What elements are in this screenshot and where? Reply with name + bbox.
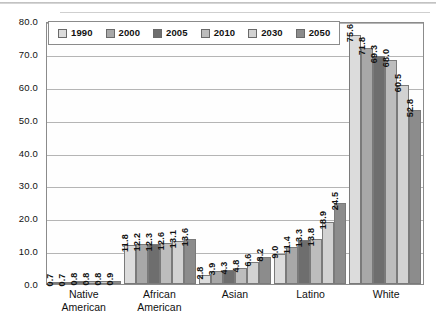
scan-artifact-line bbox=[0, 2, 436, 4]
bar-slot: 0.7 bbox=[49, 23, 61, 284]
bar-value-label: 52.8 bbox=[406, 99, 415, 117]
x-axis-category-label-line: Latino bbox=[273, 288, 349, 301]
bar-value-label: 0.8 bbox=[70, 273, 79, 286]
y-tick-label: 20.0 bbox=[19, 214, 38, 224]
bar-slot: 0.8 bbox=[97, 23, 109, 284]
x-axis-category-label: White bbox=[348, 288, 424, 314]
x-axis-category-label-line: Native bbox=[46, 288, 122, 301]
bar-group: 9.011.413.313.818.924.5 bbox=[273, 23, 348, 284]
bar-value-label: 12.2 bbox=[133, 233, 142, 251]
bar-value-label: 2.8 bbox=[196, 266, 205, 279]
bar-value-label: 6.6 bbox=[244, 254, 253, 267]
bar-slot: 13.8 bbox=[310, 23, 322, 284]
bar-slot: 3.9 bbox=[211, 23, 223, 284]
bar-slot: 6.6 bbox=[247, 23, 259, 284]
legend-label: 2005 bbox=[166, 28, 188, 38]
y-tick-label: 70.0 bbox=[19, 50, 38, 60]
bar-value-label: 69.3 bbox=[370, 45, 379, 63]
bar-slot: 60.5 bbox=[397, 23, 409, 284]
legend-item: 2000 bbox=[106, 28, 141, 38]
y-tick-label: 80.0 bbox=[19, 17, 38, 27]
bar[interactable] bbox=[334, 203, 346, 284]
bar-group: 0.70.70.80.80.80.9 bbox=[47, 23, 122, 284]
x-axis-category-label-line: American bbox=[122, 301, 198, 314]
bar-value-label: 9.0 bbox=[271, 246, 280, 259]
legend-swatch-icon bbox=[248, 29, 257, 38]
bar-value-label: 0.7 bbox=[46, 273, 55, 286]
x-axis-category-label-line: American bbox=[46, 301, 122, 314]
x-axis-category-labels: NativeAmericanAfricanAmericanAsianLatino… bbox=[46, 288, 424, 314]
bar-value-label: 11.8 bbox=[121, 234, 130, 252]
legend: 199020002005201020302050 bbox=[48, 21, 340, 45]
bar[interactable] bbox=[349, 35, 361, 284]
x-axis-category-label: Asian bbox=[197, 288, 273, 314]
chart-figure: 0.010.020.030.040.050.060.070.080.0 0.70… bbox=[0, 0, 436, 330]
bar-group: 11.812.212.312.613.113.6 bbox=[122, 23, 197, 284]
y-tick-label: 50.0 bbox=[19, 116, 38, 126]
x-axis-category-label-line: African bbox=[122, 288, 198, 301]
bar-value-label: 3.9 bbox=[208, 263, 217, 276]
bar-value-label: 68.0 bbox=[382, 49, 391, 67]
y-axis: 0.010.020.030.040.050.060.070.080.0 bbox=[0, 22, 44, 285]
bar-value-label: 0.8 bbox=[82, 273, 91, 286]
bar-value-label: 18.9 bbox=[319, 211, 328, 229]
x-axis-category-label: NativeAmerican bbox=[46, 288, 122, 314]
bar-value-label: 13.3 bbox=[295, 229, 304, 247]
y-tick-label: 10.0 bbox=[19, 247, 38, 257]
bar-slot: 52.8 bbox=[409, 23, 421, 284]
bar-slot: 75.6 bbox=[349, 23, 361, 284]
legend-item: 2030 bbox=[248, 28, 283, 38]
bar-slot: 0.8 bbox=[85, 23, 97, 284]
bar[interactable] bbox=[322, 222, 334, 284]
bar[interactable] bbox=[361, 48, 373, 284]
bar-value-label: 13.6 bbox=[181, 228, 190, 246]
bar[interactable] bbox=[385, 60, 397, 284]
bar-value-label: 4.3 bbox=[220, 261, 229, 274]
bar-slot: 2.8 bbox=[199, 23, 211, 284]
bar-value-label: 12.3 bbox=[145, 232, 154, 250]
bar-value-label: 0.7 bbox=[58, 273, 67, 286]
legend-label: 2010 bbox=[214, 28, 236, 38]
x-axis-category-label-line: Asian bbox=[197, 288, 273, 301]
legend-item: 1990 bbox=[58, 28, 93, 38]
bar-slot: 0.7 bbox=[61, 23, 73, 284]
legend-swatch-icon bbox=[106, 29, 115, 38]
bar[interactable] bbox=[274, 254, 286, 284]
legend-label: 2050 bbox=[309, 28, 331, 38]
bar-slot: 24.5 bbox=[334, 23, 346, 284]
bar-value-label: 13.1 bbox=[169, 230, 178, 248]
bar-value-label: 75.6 bbox=[346, 24, 355, 42]
bar-value-label: 24.5 bbox=[331, 192, 340, 210]
legend-item: 2010 bbox=[201, 28, 236, 38]
bar[interactable] bbox=[373, 56, 385, 284]
bar-value-label: 0.9 bbox=[106, 272, 115, 285]
bar-value-label: 11.4 bbox=[283, 236, 292, 254]
bar-groups: 0.70.70.80.80.80.911.812.212.312.613.113… bbox=[47, 23, 423, 284]
bar-value-label: 12.6 bbox=[157, 231, 166, 249]
bar-slot: 4.3 bbox=[223, 23, 235, 284]
bar[interactable] bbox=[409, 110, 421, 284]
legend-swatch-icon bbox=[153, 29, 162, 38]
legend-item: 2005 bbox=[153, 28, 188, 38]
bar-slot: 0.9 bbox=[109, 23, 121, 284]
bar-slot: 13.6 bbox=[184, 23, 196, 284]
y-tick-label: 60.0 bbox=[19, 83, 38, 93]
y-tick-label: 40.0 bbox=[19, 149, 38, 159]
bar-slot: 68.0 bbox=[385, 23, 397, 284]
bar-value-label: 4.8 bbox=[232, 260, 241, 273]
y-tick-label: 0.0 bbox=[24, 280, 38, 290]
bar-value-label: 8.2 bbox=[256, 248, 265, 261]
x-axis-category-label-line: White bbox=[348, 288, 424, 301]
x-axis-category-label: Latino bbox=[273, 288, 349, 314]
bar-value-label: 13.8 bbox=[307, 227, 316, 245]
legend-label: 2000 bbox=[119, 28, 141, 38]
bar-slot: 4.8 bbox=[235, 23, 247, 284]
plot-area: 0.70.70.80.80.80.911.812.212.312.613.113… bbox=[46, 22, 424, 285]
legend-swatch-icon bbox=[201, 29, 210, 38]
x-axis-category-label: AfricanAmerican bbox=[122, 288, 198, 314]
bar-slot: 18.9 bbox=[322, 23, 334, 284]
legend-swatch-icon bbox=[58, 29, 67, 38]
bar-slot: 0.8 bbox=[73, 23, 85, 284]
bar-group: 75.671.869.368.060.552.8 bbox=[348, 23, 423, 284]
legend-item: 2050 bbox=[296, 28, 331, 38]
